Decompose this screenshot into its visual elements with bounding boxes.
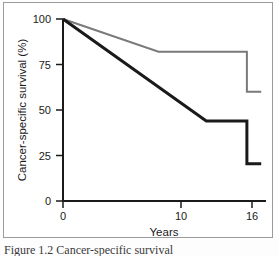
y-tick-label-25: 25 [39, 150, 51, 162]
y-tick-label-0: 0 [45, 195, 51, 207]
y-tick-label-100: 100 [33, 13, 51, 25]
survival-chart: 100 75 50 25 0 0 10 16 Years Cancer-spec… [4, 3, 274, 239]
x-axis-title: Years [150, 226, 179, 238]
figure-caption: Figure 1.2 Cancer-specific survival [4, 244, 275, 256]
series-line-upper-curve [63, 19, 261, 92]
x-tick-label-10: 10 [175, 210, 187, 222]
y-tick-label-75: 75 [39, 59, 51, 71]
chart-plot-area: 100 75 50 25 0 0 10 16 Years Cancer-spec… [4, 3, 274, 239]
series-line-lower-curve [63, 19, 261, 164]
x-tick-label-16: 16 [246, 210, 258, 222]
y-axis-title: Cancer-specific survival (%) [16, 39, 28, 182]
y-tick-label-50: 50 [39, 104, 51, 116]
figure-frame: 100 75 50 25 0 0 10 16 Years Cancer-spec… [3, 2, 273, 238]
figure-container: 100 75 50 25 0 0 10 16 Years Cancer-spec… [0, 0, 279, 256]
x-tick-label-0: 0 [60, 210, 66, 222]
